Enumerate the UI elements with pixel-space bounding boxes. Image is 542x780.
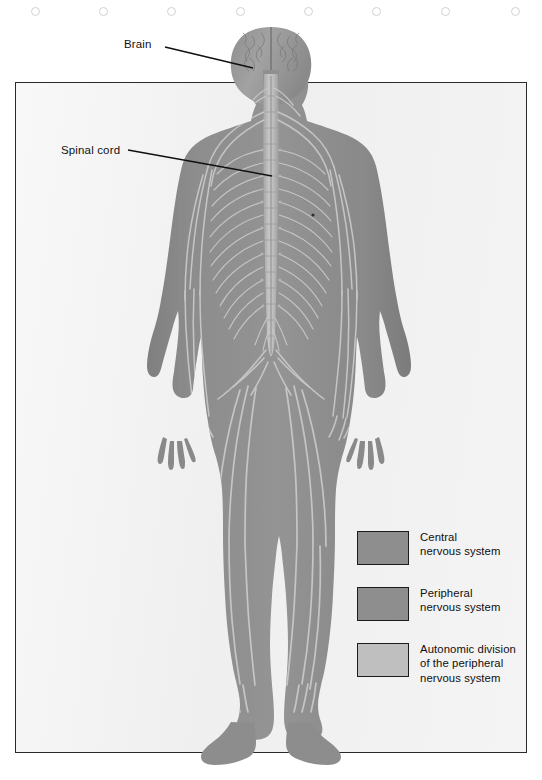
punch-hole	[304, 7, 313, 16]
legend-line: of the peripheral	[420, 656, 516, 670]
legend-line: Central	[420, 530, 501, 544]
legend-line: nervous system	[420, 544, 501, 558]
legend-label-central-nervous-system: Central nervous system	[420, 530, 501, 559]
punch-hole-strip	[0, 0, 542, 24]
punch-hole	[441, 7, 450, 16]
brain-label: Brain	[124, 38, 152, 50]
punch-hole	[236, 7, 245, 16]
legend-swatch-central-nervous-system	[357, 531, 409, 565]
legend-swatch-peripheral-nervous-system	[357, 587, 409, 621]
punch-hole	[31, 7, 40, 16]
legend-line: Autonomic division	[420, 642, 516, 656]
spinal-cord-label: Spinal cord	[61, 144, 120, 156]
legend-line: nervous system	[420, 671, 516, 685]
punch-hole	[511, 7, 520, 16]
legend-item-autonomic-division: Autonomic division of the peripheral ner…	[357, 642, 529, 685]
punch-hole	[372, 7, 381, 16]
legend-line: Peripheral	[420, 586, 501, 600]
brain-leader-line	[165, 47, 253, 68]
legend-swatch-autonomic-division	[357, 643, 409, 677]
legend-line: nervous system	[420, 600, 501, 614]
legend-label-peripheral-nervous-system: Peripheral nervous system	[420, 586, 501, 615]
legend-item-central-nervous-system: Central nervous system	[357, 530, 529, 565]
punch-hole	[99, 7, 108, 16]
punch-hole	[167, 7, 176, 16]
legend-item-peripheral-nervous-system: Peripheral nervous system	[357, 586, 529, 621]
legend: Central nervous system Peripheral nervou…	[357, 530, 529, 706]
legend-label-autonomic-division: Autonomic division of the peripheral ner…	[420, 642, 516, 685]
